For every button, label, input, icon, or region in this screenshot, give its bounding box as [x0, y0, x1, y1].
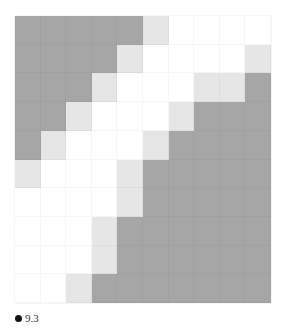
board-cell[interactable] — [15, 217, 41, 246]
board-cell[interactable] — [194, 274, 220, 303]
board-cell[interactable] — [169, 131, 195, 160]
board-cell[interactable] — [194, 217, 220, 246]
board-cell[interactable] — [66, 45, 92, 74]
board-cell[interactable] — [245, 73, 271, 102]
board-cell[interactable] — [66, 131, 92, 160]
board-cell[interactable] — [66, 246, 92, 275]
board-cell[interactable] — [220, 16, 246, 45]
board-cell[interactable] — [66, 160, 92, 189]
board-cell[interactable] — [92, 217, 118, 246]
board-cell[interactable] — [143, 246, 169, 275]
board-cell[interactable] — [143, 73, 169, 102]
board-cell[interactable] — [143, 160, 169, 189]
board-cell[interactable] — [92, 73, 118, 102]
board-cell[interactable] — [169, 160, 195, 189]
board-cell[interactable] — [41, 188, 67, 217]
board-cell[interactable] — [66, 274, 92, 303]
board-cell[interactable] — [92, 16, 118, 45]
board-cell[interactable] — [169, 217, 195, 246]
board-cell[interactable] — [66, 16, 92, 45]
board-cell[interactable] — [41, 45, 67, 74]
board-cell[interactable] — [220, 45, 246, 74]
board-cell[interactable] — [245, 246, 271, 275]
board-cell[interactable] — [117, 188, 143, 217]
board-cell[interactable] — [220, 217, 246, 246]
board-cell[interactable] — [245, 131, 271, 160]
board-cell[interactable] — [117, 16, 143, 45]
board-cell[interactable] — [15, 246, 41, 275]
board-cell[interactable] — [143, 102, 169, 131]
board-cell[interactable] — [92, 131, 118, 160]
board-cell[interactable] — [220, 73, 246, 102]
board-cell[interactable] — [15, 16, 41, 45]
board-cell[interactable] — [143, 274, 169, 303]
board-cell[interactable] — [41, 274, 67, 303]
board-cell[interactable] — [117, 160, 143, 189]
board-cell[interactable] — [169, 246, 195, 275]
board-cell[interactable] — [194, 45, 220, 74]
board-cell[interactable] — [143, 45, 169, 74]
board-cell[interactable] — [92, 246, 118, 275]
board-cell[interactable] — [15, 102, 41, 131]
board-cell[interactable] — [117, 246, 143, 275]
board-cell[interactable] — [245, 160, 271, 189]
board-cell[interactable] — [15, 188, 41, 217]
board-cell[interactable] — [220, 131, 246, 160]
board-cell[interactable] — [66, 73, 92, 102]
board-cell[interactable] — [194, 188, 220, 217]
board-cell[interactable] — [169, 274, 195, 303]
board-cell[interactable] — [194, 246, 220, 275]
board-cell[interactable] — [15, 160, 41, 189]
board-cell[interactable] — [92, 102, 118, 131]
board-cell[interactable] — [143, 188, 169, 217]
board-cell[interactable] — [117, 73, 143, 102]
board-cell[interactable] — [245, 188, 271, 217]
board-cell[interactable] — [169, 102, 195, 131]
board-cell[interactable] — [194, 16, 220, 45]
board-cell[interactable] — [41, 16, 67, 45]
board-cell[interactable] — [220, 188, 246, 217]
board-cell[interactable] — [117, 131, 143, 160]
board-cell[interactable] — [15, 73, 41, 102]
board-cell[interactable] — [41, 246, 67, 275]
board-cell[interactable] — [169, 45, 195, 74]
board-cell[interactable] — [194, 131, 220, 160]
board-cell[interactable] — [169, 73, 195, 102]
board-cell[interactable] — [92, 45, 118, 74]
board-cell[interactable] — [245, 217, 271, 246]
board-cell[interactable] — [117, 45, 143, 74]
board-cell[interactable] — [143, 16, 169, 45]
board-cell[interactable] — [245, 274, 271, 303]
board-cell[interactable] — [220, 160, 246, 189]
board-cell[interactable] — [117, 102, 143, 131]
board-cell[interactable] — [15, 45, 41, 74]
board-cell[interactable] — [41, 73, 67, 102]
board-cell[interactable] — [220, 246, 246, 275]
board-cell[interactable] — [41, 217, 67, 246]
board-cell[interactable] — [41, 131, 67, 160]
board-cell[interactable] — [15, 274, 41, 303]
board-cell[interactable] — [117, 274, 143, 303]
board-cell[interactable] — [245, 16, 271, 45]
board-cell[interactable] — [41, 160, 67, 189]
board-cell[interactable] — [143, 217, 169, 246]
board-cell[interactable] — [194, 102, 220, 131]
board-cell[interactable] — [194, 73, 220, 102]
board-cell[interactable] — [245, 102, 271, 131]
board-cell[interactable] — [220, 274, 246, 303]
board-cell[interactable] — [194, 160, 220, 189]
board-cell[interactable] — [143, 131, 169, 160]
board-cell[interactable] — [41, 102, 67, 131]
board-cell[interactable] — [66, 217, 92, 246]
board-cell[interactable] — [220, 102, 246, 131]
board-cell[interactable] — [66, 188, 92, 217]
board-cell[interactable] — [169, 16, 195, 45]
board-cell[interactable] — [117, 217, 143, 246]
board-cell[interactable] — [66, 102, 92, 131]
board-cell[interactable] — [15, 131, 41, 160]
board-cell[interactable] — [92, 160, 118, 189]
board-cell[interactable] — [92, 274, 118, 303]
board-cell[interactable] — [245, 45, 271, 74]
board-cell[interactable] — [169, 188, 195, 217]
board-cell[interactable] — [92, 188, 118, 217]
